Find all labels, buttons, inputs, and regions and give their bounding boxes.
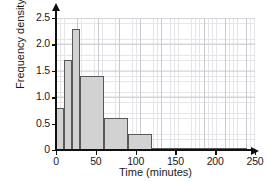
x-axis-line xyxy=(55,149,252,151)
y-tick-mark xyxy=(52,71,56,72)
y-tick-mark xyxy=(52,44,56,45)
x-tick-mark xyxy=(255,151,256,155)
y-tick-mark xyxy=(52,18,56,19)
x-tick-mark xyxy=(175,151,176,155)
y-tick-label: 0 xyxy=(20,143,50,155)
histogram-bar xyxy=(80,76,104,150)
x-tick-mark xyxy=(96,151,97,155)
y-axis-line xyxy=(55,10,57,151)
plot-area xyxy=(56,18,255,150)
histogram-chart: 050100150200250 00.51.01.52.02.5 Time (m… xyxy=(0,0,267,182)
histogram-bar xyxy=(64,60,72,150)
y-axis-arrow-icon xyxy=(52,3,60,11)
histogram-bar xyxy=(104,118,128,150)
histogram-bar xyxy=(128,134,152,150)
y-axis-title: Frequency density xyxy=(14,0,26,104)
y-tick-mark xyxy=(52,124,56,125)
histogram-bar xyxy=(56,108,64,150)
y-tick-label: 0.5 xyxy=(20,117,50,129)
x-axis-title: Time (minutes) xyxy=(56,166,255,178)
y-tick-mark xyxy=(52,97,56,98)
x-tick-mark xyxy=(136,151,137,155)
x-tick-mark xyxy=(56,151,57,155)
x-tick-mark xyxy=(215,151,216,155)
y-tick-mark xyxy=(52,150,56,151)
histogram-bar xyxy=(72,29,80,150)
